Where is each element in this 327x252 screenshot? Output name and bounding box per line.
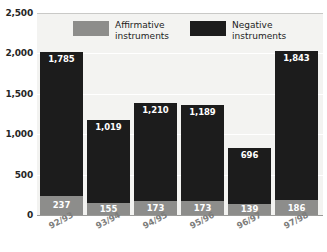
stacked-bar-chart: 2,500 2,000 1,500 1,000 500 0 1,785 237 bbox=[0, 0, 327, 252]
bar-value-negative-97-98: 1,843 bbox=[275, 54, 318, 63]
bar-group-96-97[interactable]: 696 139 bbox=[228, 148, 271, 216]
bar-segment-negative-95-96[interactable]: 1,189 bbox=[181, 105, 224, 201]
bar-group-93-94[interactable]: 1,019 155 bbox=[87, 120, 130, 215]
bar-segment-affirmative-92-93[interactable]: 237 bbox=[40, 196, 83, 215]
bar-value-affirmative-97-98: 186 bbox=[275, 203, 318, 212]
legend-item-affirmative[interactable]: Affirmative instruments bbox=[73, 20, 169, 41]
legend-label-affirmative: Affirmative instruments bbox=[115, 20, 169, 41]
plot-area: 1,785 237 1,019 155 1,210 bbox=[37, 13, 323, 215]
legend-label-negative-line1: Negative bbox=[232, 20, 286, 31]
bar-segment-negative-93-94[interactable]: 1,019 bbox=[87, 120, 130, 202]
legend-label-negative: Negative instruments bbox=[232, 20, 286, 41]
legend-label-affirmative-line1: Affirmative bbox=[115, 20, 169, 31]
bar-segment-negative-94-95[interactable]: 1,210 bbox=[134, 103, 177, 201]
bar-value-affirmative-93-94: 155 bbox=[87, 204, 130, 213]
bar-segment-affirmative-97-98[interactable]: 186 bbox=[275, 200, 318, 215]
y-tick-label-500: 500 bbox=[15, 171, 33, 180]
bar-group-92-93[interactable]: 1,785 237 bbox=[40, 52, 83, 216]
y-tick-label-1500: 1,500 bbox=[6, 90, 33, 99]
bar-value-affirmative-94-95: 173 bbox=[134, 204, 177, 213]
legend-swatch-affirmative-icon bbox=[73, 21, 109, 36]
bar-segment-negative-96-97[interactable]: 696 bbox=[228, 148, 271, 204]
chart-legend: Affirmative instruments Negative instrum… bbox=[73, 20, 286, 41]
bars-layer: 1,785 237 1,019 155 1,210 bbox=[37, 13, 323, 215]
bar-value-negative-96-97: 696 bbox=[228, 151, 271, 160]
bar-value-affirmative-95-96: 173 bbox=[181, 204, 224, 213]
y-tick-label-0: 0 bbox=[27, 211, 33, 220]
x-axis: 92/93 93/94 94/95 95/96 96/97 97/98 bbox=[37, 216, 323, 252]
bar-value-affirmative-92-93: 237 bbox=[40, 201, 83, 210]
bar-value-negative-92-93: 1,785 bbox=[40, 55, 83, 64]
bar-value-affirmative-96-97: 139 bbox=[228, 205, 271, 214]
bar-segment-negative-92-93[interactable]: 1,785 bbox=[40, 52, 83, 196]
y-tick-label-2500: 2,500 bbox=[6, 9, 33, 18]
y-tick-label-1000: 1,000 bbox=[6, 130, 33, 139]
bar-value-negative-94-95: 1,210 bbox=[134, 106, 177, 115]
bar-group-94-95[interactable]: 1,210 173 bbox=[134, 103, 177, 215]
legend-label-affirmative-line2: instruments bbox=[115, 31, 169, 42]
legend-item-negative[interactable]: Negative instruments bbox=[190, 20, 286, 41]
legend-swatch-negative-icon bbox=[190, 21, 226, 36]
bar-segment-negative-97-98[interactable]: 1,843 bbox=[275, 51, 318, 200]
bar-value-negative-93-94: 1,019 bbox=[87, 123, 130, 132]
bar-group-97-98[interactable]: 1,843 186 bbox=[275, 51, 318, 215]
legend-label-negative-line2: instruments bbox=[232, 31, 286, 42]
bar-group-95-96[interactable]: 1,189 173 bbox=[181, 105, 224, 215]
y-axis: 2,500 2,000 1,500 1,000 500 0 bbox=[0, 0, 36, 252]
bar-value-negative-95-96: 1,189 bbox=[181, 108, 224, 117]
y-tick-label-2000: 2,000 bbox=[6, 49, 33, 58]
